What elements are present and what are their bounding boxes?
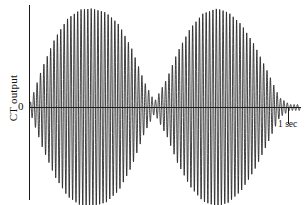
waveform-plot xyxy=(0,0,307,205)
y-axis-zero-tick-label: 0 xyxy=(18,99,24,113)
beat-waveform-trace xyxy=(30,9,301,205)
time-scale-label: 1 sec xyxy=(278,118,297,130)
figure-container: CT output 0 1 sec xyxy=(0,0,307,205)
y-axis-label: CT output xyxy=(5,63,21,133)
